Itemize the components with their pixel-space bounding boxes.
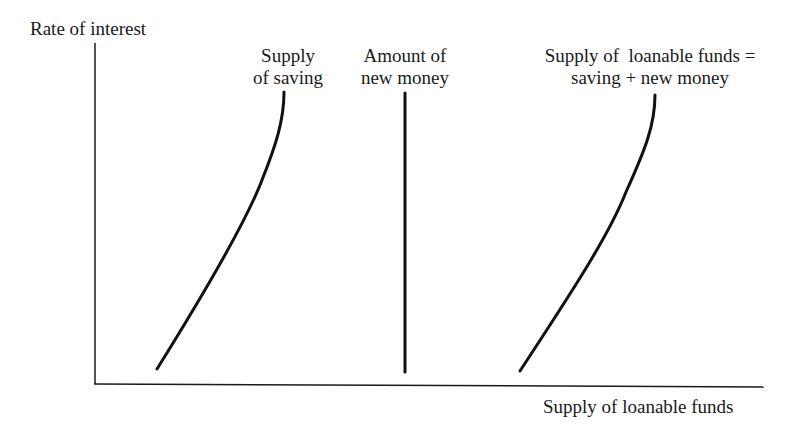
total-label-line2: saving + new money [525, 67, 775, 89]
x-axis [94, 384, 764, 387]
saving-label-line2: of saving [243, 67, 333, 89]
y-axis-label: Rate of interest [30, 18, 146, 40]
x-axis-label: Supply of loanable funds [543, 396, 734, 418]
total-label-line1: Supply of loanable funds = [525, 45, 775, 67]
money-label-line2: new money [350, 67, 460, 89]
supply-of-saving-curve [157, 92, 284, 369]
loanable-funds-supply-curve [520, 95, 655, 371]
money-label-line1: Amount of [350, 45, 460, 67]
saving-label-line1: Supply [243, 45, 333, 67]
